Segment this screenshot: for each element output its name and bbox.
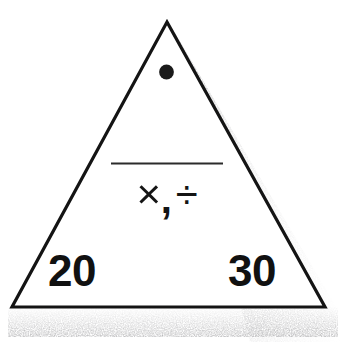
- bottom-right-number: 30: [228, 249, 276, 293]
- bottom-left-number: 20: [48, 249, 96, 293]
- multiply-symbol: ×: [137, 174, 162, 214]
- math-triangle-flashcard: ×,÷ 20 30: [0, 0, 341, 342]
- operator-row: ×,÷: [111, 170, 224, 218]
- base-shadow: [8, 307, 338, 337]
- apex-dot-icon: [159, 65, 174, 80]
- operator-separator: ,: [161, 179, 172, 219]
- divide-symbol: ÷: [176, 174, 198, 214]
